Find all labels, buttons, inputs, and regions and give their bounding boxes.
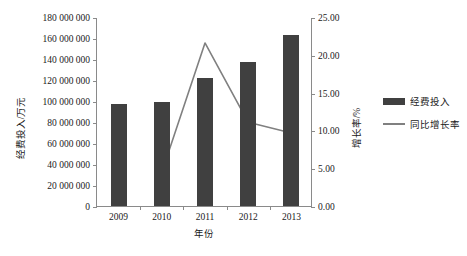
y-axis-right-tick bbox=[311, 56, 315, 57]
legend-bar-label: 经费投入 bbox=[410, 94, 450, 108]
x-axis-tick bbox=[227, 206, 228, 210]
y-axis-right-tick bbox=[311, 207, 315, 208]
x-axis-tick-label: 2013 bbox=[282, 212, 301, 222]
y-axis-left-tick bbox=[93, 60, 97, 61]
x-axis-title: 年份 bbox=[194, 226, 214, 240]
x-axis-tick-label: 2012 bbox=[239, 212, 258, 222]
y-axis-right-tick-label: 5.00 bbox=[318, 164, 335, 174]
legend-line-label: 同比增长率 bbox=[410, 117, 460, 131]
y-axis-right-title: 增长率/% bbox=[349, 108, 363, 149]
x-axis-tick-label: 2010 bbox=[152, 212, 171, 222]
y-axis-left-tick-label: 160 000 000 bbox=[43, 34, 91, 44]
y-axis-left-tick-label: 180 000 000 bbox=[43, 13, 91, 23]
y-axis-left-tick-label: 40 000 000 bbox=[47, 160, 90, 170]
x-axis-tick-label: 2009 bbox=[109, 212, 128, 222]
y-axis-right-tick-label: 15.00 bbox=[318, 89, 339, 99]
y-axis-left-tick-label: 100 000 000 bbox=[43, 97, 91, 107]
y-axis-right-tick-label: 0.00 bbox=[318, 202, 335, 212]
y-axis-left-tick bbox=[93, 186, 97, 187]
bar-2011 bbox=[197, 78, 213, 206]
bar-2009 bbox=[111, 104, 127, 206]
y-axis-left-tick bbox=[93, 165, 97, 166]
chart-container: 经费投入/万元 增长率/% 年份 020 000 00040 000 00060… bbox=[0, 0, 467, 256]
y-axis-left-tick bbox=[93, 81, 97, 82]
y-axis-left-tick bbox=[93, 123, 97, 124]
y-axis-right-tick-label: 25.00 bbox=[318, 13, 339, 23]
y-axis-left-tick-label: 0 bbox=[85, 202, 90, 212]
y-axis-right-tick bbox=[311, 18, 315, 19]
legend-line-swatch-icon bbox=[383, 123, 405, 125]
bar-2010 bbox=[154, 102, 170, 206]
y-axis-left-tick bbox=[93, 144, 97, 145]
y-axis-left-title: 经费投入/万元 bbox=[13, 97, 27, 160]
y-axis-left-tick-label: 140 000 000 bbox=[43, 55, 91, 65]
y-axis-left-tick bbox=[93, 102, 97, 103]
y-axis-left-tick-label: 120 000 000 bbox=[43, 76, 91, 86]
y-axis-right-tick bbox=[311, 131, 315, 132]
x-axis-tick-label: 2011 bbox=[196, 212, 215, 222]
chart-legend: 经费投入 同比增长率 bbox=[383, 94, 460, 140]
growth-rate-polyline bbox=[162, 43, 292, 172]
y-axis-left-tick bbox=[93, 18, 97, 19]
y-axis-left-tick bbox=[93, 39, 97, 40]
legend-item-bar: 经费投入 bbox=[383, 94, 460, 108]
plot-area: 020 000 00040 000 00060 000 00080 000 00… bbox=[96, 18, 312, 207]
y-axis-left-tick-label: 60 000 000 bbox=[47, 139, 90, 149]
x-axis-tick bbox=[183, 206, 184, 210]
y-axis-left-tick-label: 20 000 000 bbox=[47, 181, 90, 191]
legend-item-line: 同比增长率 bbox=[383, 117, 460, 131]
legend-bar-swatch-icon bbox=[383, 98, 405, 105]
x-axis-tick bbox=[270, 206, 271, 210]
y-axis-right-tick bbox=[311, 94, 315, 95]
y-axis-right-tick-label: 10.00 bbox=[318, 126, 339, 136]
bar-2013 bbox=[283, 35, 299, 206]
y-axis-right-tick bbox=[311, 169, 315, 170]
bar-2012 bbox=[240, 62, 256, 206]
y-axis-left-tick-label: 80 000 000 bbox=[47, 118, 90, 128]
x-axis-tick bbox=[140, 206, 141, 210]
y-axis-left-tick bbox=[93, 207, 97, 208]
y-axis-right-tick-label: 20.00 bbox=[318, 51, 339, 61]
